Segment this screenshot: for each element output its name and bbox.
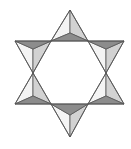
pyramid-lower-right [88,73,124,104]
pyramid-upper-left [15,41,51,73]
star-of-pyramids-diagram [0,0,131,149]
pyramid-lower-left [15,73,51,104]
pyramid-top [51,10,88,41]
pyramid-bottom [51,104,88,137]
pyramid-upper-right [88,41,124,73]
